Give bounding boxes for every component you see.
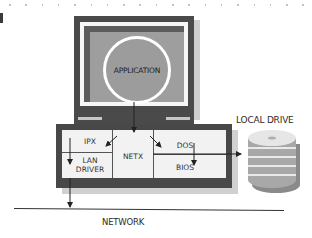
arrow-netx-to-ipx xyxy=(106,136,117,146)
arrow-netx-to-dos xyxy=(150,136,161,147)
local-drive-icon xyxy=(248,130,300,193)
connector-layer xyxy=(0,0,312,238)
network-label: NETWORK xyxy=(102,217,144,227)
